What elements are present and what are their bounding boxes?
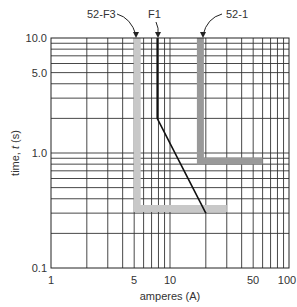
y-axis-label: time, t (s): [9, 130, 21, 176]
callout-F1: F1: [148, 8, 161, 20]
y-tick-5: 5.0: [32, 67, 47, 79]
x-tick-10: 10: [164, 274, 176, 286]
x-tick-100: 100: [278, 274, 296, 286]
arrowhead-F1: [155, 32, 161, 38]
callout-arrow-52-F3: [117, 14, 136, 35]
x-tick-5: 5: [131, 274, 137, 286]
callout-arrow-52-1: [203, 14, 222, 35]
callout-52-1: 52-1: [226, 8, 248, 20]
x-axis-label: amperes (A): [140, 290, 201, 302]
x-tick-1: 1: [48, 274, 54, 286]
callout-52-F3: 52-F3: [87, 8, 116, 20]
arrowhead-52-1: [200, 32, 206, 38]
y-tick-1: 1.0: [32, 147, 47, 159]
x-tick-50: 50: [247, 274, 259, 286]
grid: [51, 38, 289, 268]
tcc-chart: 10.0 5.0 1.0 0.1 1 5 10 50 100 amperes (…: [0, 0, 297, 307]
arrowhead-52-F3: [133, 32, 139, 38]
y-tick-10: 10.0: [26, 32, 47, 44]
y-tick-0-1: 0.1: [32, 262, 47, 274]
curves: [137, 38, 262, 213]
